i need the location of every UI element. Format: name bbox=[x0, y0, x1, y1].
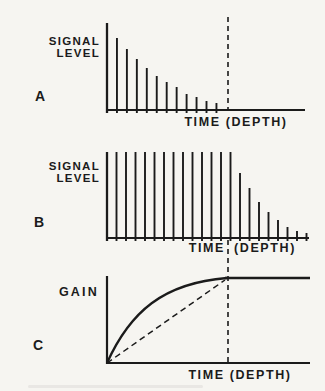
scan-smudge-artifact bbox=[28, 385, 203, 388]
panel-c-curves bbox=[106, 276, 310, 364]
panel-a-ylabel-line2: LEVEL bbox=[56, 47, 100, 59]
panel-a-ylabel-line1: SIGNAL bbox=[49, 35, 100, 47]
panel-a-spikes bbox=[106, 23, 305, 113]
linear-gain-dashed-reference bbox=[107, 280, 225, 363]
panel-c-ylabel: GAIN bbox=[59, 285, 99, 299]
scanned-figure-page: A SIGNAL LEVEL TIME (DEPTH) B SIGNAL LEV… bbox=[0, 0, 325, 391]
panel-b-spikes bbox=[106, 152, 309, 241]
tvg-three-panel-figure: A SIGNAL LEVEL TIME (DEPTH) B SIGNAL LEV… bbox=[0, 0, 325, 391]
panel-b-ylabel-line2: LEVEL bbox=[56, 172, 100, 184]
panel-b-xlabel-depth: (DEPTH) bbox=[234, 241, 296, 255]
panel-b-letter: B bbox=[34, 214, 44, 230]
panel-a-xlabel: TIME (DEPTH) bbox=[184, 115, 287, 129]
panel-c-letter: C bbox=[33, 337, 43, 353]
panel-b-gained-signal-plot: B SIGNAL LEVEL TIME (DEPTH) bbox=[34, 152, 309, 255]
panel-c-gain-curve-plot: C GAIN TIME (DEPTH) bbox=[33, 276, 310, 382]
panel-a-raw-signal-plot: A SIGNAL LEVEL TIME (DEPTH) bbox=[35, 23, 305, 129]
panel-b-xlabel-time: TIME bbox=[189, 241, 225, 255]
panel-c-xlabel: TIME (DEPTH) bbox=[188, 368, 291, 382]
panel-a-letter: A bbox=[35, 88, 45, 104]
panel-b-ylabel-line1: SIGNAL bbox=[49, 160, 100, 172]
